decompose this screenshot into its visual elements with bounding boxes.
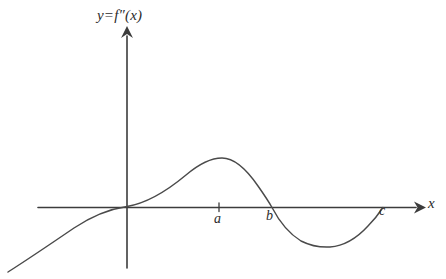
point-label-c: c: [379, 204, 385, 218]
point-label-b: b: [266, 209, 273, 223]
curve-f-double-prime: [8, 158, 383, 272]
x-axis-label: x: [428, 196, 435, 211]
function-label-text: y=f″(x): [97, 7, 142, 23]
function-label: y=f″(x): [97, 8, 142, 23]
figure-container: y=f″(x) x a b c: [0, 0, 446, 279]
point-label-a: a: [214, 212, 221, 226]
graph-canvas: [0, 0, 446, 279]
